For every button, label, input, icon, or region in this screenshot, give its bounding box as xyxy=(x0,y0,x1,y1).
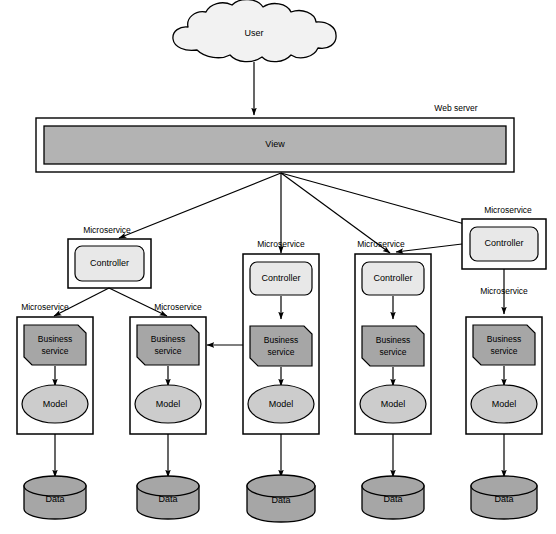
architecture-diagram: User Web server View Microservice Contro… xyxy=(0,0,556,534)
ms5-business-service-label-line1: Business xyxy=(376,335,411,345)
ms5-business-service-label-line2: service xyxy=(380,347,407,357)
edge-view-to-ms1 xyxy=(119,173,281,238)
ms7-business-service-label-line2: service xyxy=(491,346,518,356)
db2-label: Data xyxy=(158,494,177,504)
db5-cylinder-top xyxy=(471,476,537,496)
ms5-microservice-label: Microservice xyxy=(357,239,405,249)
ms4-controller-label: Controller xyxy=(261,273,300,283)
user-label: User xyxy=(244,28,263,38)
edge-ms6-to-ms5 xyxy=(396,244,462,252)
microservice-box-ms7: Business service Model xyxy=(466,317,542,434)
datastore-db5: Data xyxy=(471,476,537,519)
datastore-db3: Data xyxy=(247,475,315,522)
microservice-box-ms3: Business service Model xyxy=(130,317,206,434)
datastore-db1: Data xyxy=(24,476,86,519)
ms4-microservice-label: Microservice xyxy=(257,239,305,249)
ms4-model-label: Model xyxy=(269,399,294,409)
ms5-model-label: Model xyxy=(381,399,406,409)
datastore-db4: Data xyxy=(362,476,424,519)
db3-label: Data xyxy=(271,495,290,505)
db4-label: Data xyxy=(383,494,402,504)
ms6-microservice-label: Microservice xyxy=(484,205,532,215)
microservice-box-ms4: Controller Business service Model xyxy=(243,254,319,434)
ms4-business-service-shape xyxy=(250,326,312,366)
datastore-db2: Data xyxy=(137,476,199,519)
ms5-controller-label: Controller xyxy=(373,273,412,283)
ms4-business-service-label-line1: Business xyxy=(264,335,299,345)
ms3-business-service-label-line2: service xyxy=(155,346,182,356)
ms2-model-label: Model xyxy=(43,399,68,409)
ms2-business-service-label-line1: Business xyxy=(38,334,73,344)
db1-cylinder-top xyxy=(24,476,86,496)
db1-label: Data xyxy=(45,494,64,504)
web-server-container: View xyxy=(36,118,514,172)
ms5-business-service-shape xyxy=(362,326,424,366)
view-label: View xyxy=(265,139,285,149)
ms1-controller-label: Controller xyxy=(90,258,129,268)
db3-cylinder-top xyxy=(247,475,315,497)
user-cloud-node: User xyxy=(173,0,336,62)
db2-cylinder-top xyxy=(137,476,199,496)
microservice-box-ms6: Controller xyxy=(462,219,546,269)
ms7-business-service-shape xyxy=(473,325,535,365)
microservice-box-ms2: Business service Model xyxy=(17,317,93,434)
web-server-label: Web server xyxy=(434,103,477,113)
microservice-box-ms1: Controller xyxy=(68,239,151,288)
diagram-canvas: User Web server View Microservice Contro… xyxy=(0,0,556,534)
ms3-business-service-label-line1: Business xyxy=(151,334,186,344)
ms3-model-label: Model xyxy=(156,399,181,409)
ms2-microservice-label: Microservice xyxy=(21,302,69,312)
ms6-controller-label: Controller xyxy=(484,238,523,248)
ms7-model-label: Model xyxy=(492,399,517,409)
db4-cylinder-top xyxy=(362,476,424,496)
microservice-box-ms5: Controller Business service Model xyxy=(355,254,431,434)
ms3-business-service-shape xyxy=(137,325,199,365)
ms7-microservice-label: Microservice xyxy=(480,286,528,296)
ms4-business-service-label-line2: service xyxy=(268,347,295,357)
ms2-business-service-shape xyxy=(24,325,86,365)
ms2-business-service-label-line2: service xyxy=(42,346,69,356)
db5-label: Data xyxy=(494,494,513,504)
ms1-microservice-label: Microservice xyxy=(83,225,131,235)
ms3-microservice-label: Microservice xyxy=(154,302,202,312)
ms7-business-service-label-line1: Business xyxy=(487,334,522,344)
